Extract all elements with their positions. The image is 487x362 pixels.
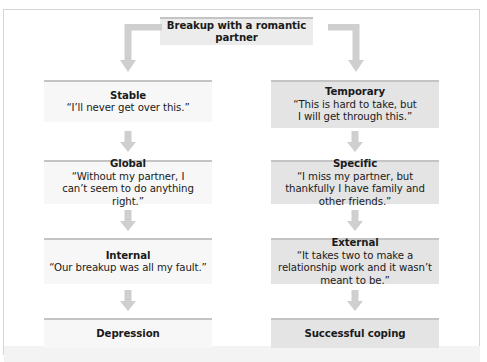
depression-outcome-box: Depression — [44, 318, 212, 348]
down-arrow-icon — [120, 290, 136, 312]
stable-box: Stable “I’ll never get over this.” — [44, 80, 212, 122]
root-label: Breakup with a romantic partner — [160, 20, 313, 45]
down-arrow-icon — [347, 131, 363, 153]
specific-box: Specific “I miss my partner, but thankfu… — [271, 160, 439, 204]
temporary-quote: “This is hard to take, but I will get th… — [293, 99, 417, 124]
global-title: Global — [110, 158, 146, 171]
global-box: Global “Without my partner, I can’t seem… — [44, 160, 212, 204]
temporary-box: Temporary “This is hard to take, but I w… — [271, 80, 439, 128]
successful-coping-outcome-box: Successful coping — [271, 318, 439, 348]
elbow-arrow-left-icon — [118, 24, 162, 74]
footer-band — [4, 346, 480, 362]
depression-label: Depression — [96, 328, 159, 341]
stable-quote: “I’ll never get over this.” — [66, 102, 189, 115]
temporary-title: Temporary — [325, 86, 385, 99]
down-arrow-icon — [120, 131, 136, 153]
specific-quote: “I miss my partner, but thankfully I hav… — [275, 171, 435, 209]
down-arrow-icon — [120, 210, 136, 232]
specific-title: Specific — [333, 158, 377, 171]
down-arrow-icon — [347, 210, 363, 232]
internal-quote: “Our breakup was all my fault.” — [49, 262, 207, 275]
root-box: Breakup with a romantic partner — [160, 17, 313, 45]
external-title: External — [331, 237, 378, 250]
internal-box: Internal “Our breakup was all my fault.” — [44, 238, 212, 284]
external-quote: “It takes two to make a relationship wor… — [273, 250, 437, 288]
external-box: External “It takes two to make a relatio… — [271, 238, 439, 284]
down-arrow-icon — [347, 290, 363, 312]
internal-title: Internal — [106, 250, 151, 263]
elbow-arrow-right-icon — [328, 24, 372, 74]
stable-title: Stable — [110, 90, 146, 103]
global-quote: “Without my partner, I can’t seem to do … — [58, 171, 198, 209]
successful-coping-label: Successful coping — [304, 328, 405, 341]
